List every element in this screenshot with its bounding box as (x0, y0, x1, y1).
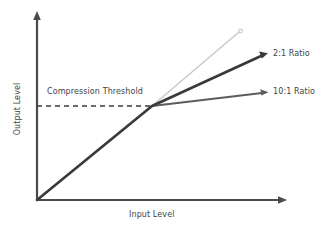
ratio-10-1-label: 10:1 Ratio (273, 88, 315, 96)
ratio-10-1-arrow-icon (260, 89, 268, 95)
compression-threshold-label: Compression Threshold (47, 88, 143, 96)
y-axis-arrow-icon (33, 11, 41, 20)
ratio-2-1-label: 2:1 Ratio (273, 50, 310, 58)
unity-ratio-endpoint-icon (239, 29, 243, 33)
y-axis-label: Output Level (14, 83, 22, 136)
ratio-2-1-curve (37, 56, 261, 200)
chart-canvas (0, 0, 333, 229)
compression-ratio-chart: Compression Threshold 2:1 Ratio 10:1 Rat… (0, 0, 333, 229)
x-axis-arrow-icon (278, 196, 287, 204)
unity-ratio-line (152, 32, 239, 106)
x-axis-label: Input Level (129, 211, 174, 219)
